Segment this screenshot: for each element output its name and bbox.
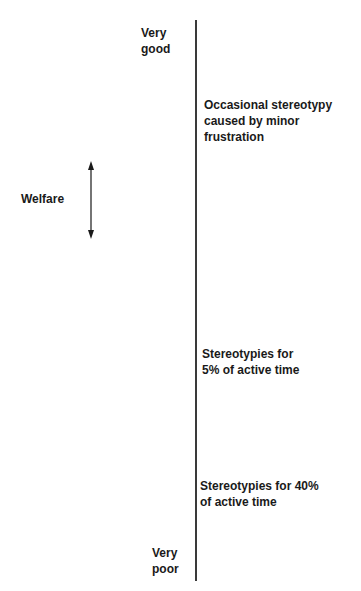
annotation-line: of active time (200, 494, 319, 510)
scale-bottom-label: Very poor (152, 545, 179, 577)
annotation-stereotypies-5-percent: Stereotypies for 5% of active time (202, 346, 299, 378)
annotation-line: Occasional stereotypy (204, 97, 332, 113)
annotation-line: caused by minor (204, 113, 332, 129)
annotation-occasional-stereotypy: Occasional stereotypy caused by minor fr… (204, 97, 332, 145)
scale-top-label-line: good (141, 41, 170, 57)
annotation-line: 5% of active time (202, 362, 299, 378)
axis-name-label: Welfare (21, 191, 64, 207)
scale-bottom-label-line: poor (152, 561, 179, 577)
annotation-line: Stereotypies for (202, 346, 299, 362)
double-headed-arrow-icon (84, 160, 98, 240)
welfare-scale-axis (195, 20, 197, 581)
annotation-line: frustration (204, 129, 332, 145)
scale-top-label-line: Very (141, 25, 170, 41)
annotation-line: Stereotypies for 40% (200, 478, 319, 494)
scale-top-label: Very good (141, 25, 170, 57)
annotation-stereotypies-40-percent: Stereotypies for 40% of active time (200, 478, 319, 510)
scale-bottom-label-line: Very (152, 545, 179, 561)
